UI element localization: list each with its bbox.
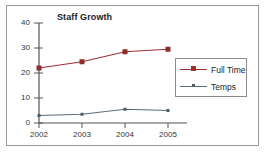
chart-legend: Full Time Temps — [175, 58, 247, 97]
series-line-temps — [39, 109, 168, 115]
y-tick-label-30: 30 — [12, 43, 30, 52]
legend-swatch-temps — [180, 81, 207, 93]
x-tick-label-2004: 2004 — [110, 130, 140, 139]
y-tick-label-10: 10 — [12, 93, 30, 102]
y-tick-label-20: 20 — [12, 68, 30, 77]
x-tick-label-2003: 2003 — [67, 130, 97, 139]
x-tick-label-2002: 2002 — [24, 130, 54, 139]
series-line-full-time — [39, 49, 168, 68]
legend-item-temps: Temps — [176, 78, 246, 95]
chart-frame: Staff Growth — [6, 5, 259, 146]
legend-swatch-full-time — [180, 64, 207, 76]
y-tick-label-40: 40 — [12, 18, 30, 27]
legend-label-full-time: Full Time — [211, 65, 245, 75]
y-tick-label-0: 0 — [12, 118, 30, 127]
x-tick-label-2005: 2005 — [153, 130, 183, 139]
legend-label-temps: Temps — [211, 82, 236, 92]
x-axis-ticks — [39, 123, 168, 128]
series-markers-temps — [38, 108, 170, 117]
legend-item-full-time: Full Time — [176, 61, 246, 78]
